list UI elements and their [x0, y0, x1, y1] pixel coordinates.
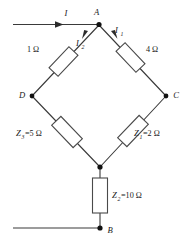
- node-dot-d: [30, 94, 35, 99]
- resistor-z3-label: Z 3 =5 Ω: [16, 128, 42, 140]
- node-dot-c: [164, 94, 169, 99]
- node-dot-b: [97, 225, 102, 230]
- node-dot-junction: [97, 164, 102, 169]
- current-i-arrow: [55, 21, 64, 27]
- resistor-z1-value: =2 Ω: [143, 129, 160, 138]
- resistor-z2-label: Z 2 =10 Ω: [112, 190, 142, 202]
- current-label-i1-symbol: I: [114, 25, 119, 35]
- resistor-z1-label: Z 1 =2 Ω: [134, 128, 160, 140]
- resistor-z1-symbol: Z: [134, 128, 139, 138]
- circuit-diagram: A D C B I I 1 I 2 1 Ω 4 Ω Z 3 =5 Ω Z 1 =…: [0, 0, 185, 247]
- resistor-4ohm-label: 4 Ω: [146, 45, 158, 54]
- node-label-c: C: [173, 90, 179, 100]
- circuit-canvas: A D C B I I 1 I 2 1 Ω 4 Ω Z 3 =5 Ω Z 1 =…: [0, 0, 185, 247]
- current-label-i1-subscript: 1: [121, 31, 124, 37]
- resistor-z3-body: [52, 116, 83, 147]
- resistor-z3-symbol: Z: [16, 128, 21, 138]
- resistor-z2-body: [93, 178, 108, 213]
- node-label-a: A: [93, 7, 100, 17]
- resistor-z2-value: =10 Ω: [121, 191, 142, 200]
- node-dot-a: [96, 22, 101, 27]
- resistor-z3-subscript: 3: [21, 134, 25, 140]
- node-label-b: B: [107, 225, 113, 235]
- node-label-d: D: [18, 90, 26, 100]
- resistor-4ohm-body: [116, 43, 145, 73]
- current-label-i: I: [64, 8, 69, 18]
- resistor-z2-symbol: Z: [112, 190, 117, 200]
- current-label-i2-subscript: 2: [82, 44, 85, 50]
- resistor-1ohm-label: 1 Ω: [27, 45, 39, 54]
- current-label-i2: I 2: [75, 38, 85, 50]
- resistor-z3-value: =5 Ω: [25, 129, 42, 138]
- resistor-1ohm-body: [49, 47, 78, 77]
